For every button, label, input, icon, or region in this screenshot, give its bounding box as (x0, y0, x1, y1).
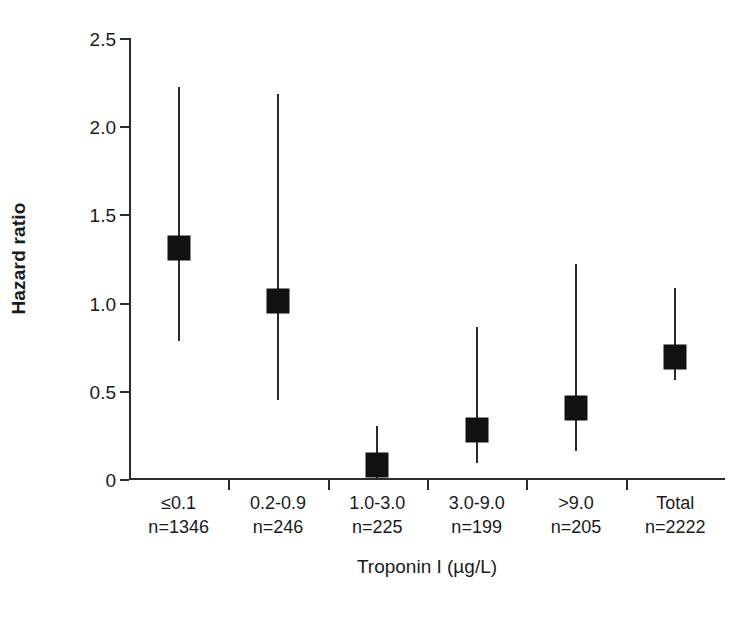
x-category-range: 1.0-3.0 (349, 492, 405, 516)
y-tick-label: 2.0 (90, 118, 116, 137)
y-axis-title-text: Hazard ratio (8, 38, 30, 479)
x-category-range: 0.2-0.9 (250, 492, 306, 516)
x-category-label: 0.2-0.9n=246 (250, 492, 306, 540)
y-axis-line (129, 38, 131, 480)
y-tick-mark (120, 214, 129, 216)
x-category-label: 3.0-9.0n=199 (449, 492, 505, 540)
data-point-marker (465, 417, 488, 442)
data-point-marker (565, 396, 588, 421)
y-tick-label: 2.5 (90, 30, 116, 49)
y-tick-mark (120, 126, 129, 128)
data-point-marker (366, 452, 389, 477)
x-category-range: >9.0 (551, 492, 602, 516)
x-category-count: n=199 (449, 516, 505, 540)
x-category-count: n=225 (349, 516, 405, 540)
y-tick-label: 1.5 (90, 206, 116, 225)
y-tick-label: 0 (105, 471, 116, 490)
x-category-label: 1.0-3.0n=225 (349, 492, 405, 540)
x-tick-mark (526, 479, 528, 490)
hazard-ratio-chart: Hazard ratio 00.51.01.52.02.5 ≤0.1n=1346… (0, 0, 756, 619)
data-point-marker (167, 235, 190, 260)
y-tick-label: 0.5 (90, 382, 116, 401)
x-tick-mark (228, 479, 230, 490)
error-bar (476, 327, 478, 463)
x-category-range: ≤0.1 (148, 492, 209, 516)
x-category-count: n=2222 (645, 516, 706, 540)
y-tick-mark (120, 391, 129, 393)
data-point-marker (664, 345, 687, 370)
x-category-count: n=1346 (148, 516, 209, 540)
error-bar (575, 264, 577, 451)
x-tick-mark (626, 479, 628, 490)
plot-area: 00.51.01.52.02.5 (129, 38, 725, 479)
x-tick-mark (328, 479, 330, 490)
data-point-marker (267, 288, 290, 313)
y-tick-mark (120, 303, 129, 305)
error-bar (178, 87, 180, 341)
x-category-range: Total (645, 492, 706, 516)
y-tick-mark (120, 479, 129, 481)
x-category-label: Totaln=2222 (645, 492, 706, 540)
x-category-count: n=246 (250, 516, 306, 540)
x-axis-title: Troponin I (µg/L) (129, 556, 725, 578)
x-tick-mark (427, 479, 429, 490)
error-bar (277, 94, 279, 399)
y-tick-label: 1.0 (90, 294, 116, 313)
x-category-label: >9.0n=205 (551, 492, 602, 540)
x-category-label: ≤0.1n=1346 (148, 492, 209, 540)
x-category-range: 3.0-9.0 (449, 492, 505, 516)
x-category-count: n=205 (551, 516, 602, 540)
y-tick-mark (120, 38, 129, 40)
